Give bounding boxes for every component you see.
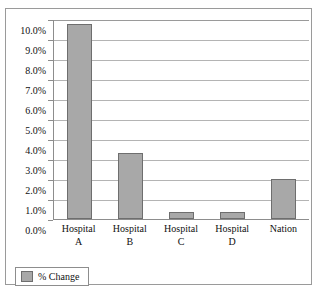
x-label-line2: B <box>104 235 155 248</box>
y-tick-label-40: 4.0% <box>6 146 46 156</box>
bar-slot <box>207 20 258 219</box>
y-axis: 0.0%1.0%2.0%3.0%4.0%5.0%6.0%7.0%8.0%9.0%… <box>6 20 46 220</box>
legend-label-percent-change: % Change <box>38 271 79 282</box>
y-tick-mark <box>48 60 53 61</box>
x-axis-label-nation: Nation <box>258 222 309 248</box>
y-tick-label-00: 0.0% <box>6 226 46 236</box>
y-tick-mark <box>48 180 53 181</box>
y-tick-label-90: 9.0% <box>6 46 46 56</box>
y-tick-label-70: 7.0% <box>6 86 46 96</box>
x-label-line1: Hospital <box>62 223 96 234</box>
chart-canvas: 0.0%1.0%2.0%3.0%4.0%5.0%6.0%7.0%8.0%9.0%… <box>0 0 318 290</box>
y-tick-mark <box>48 100 53 101</box>
y-tick-mark <box>48 40 53 41</box>
x-label-line1: Hospital <box>164 223 198 234</box>
y-tick-label-10: 1.0% <box>6 206 46 216</box>
y-tick-mark <box>48 160 53 161</box>
y-tick-mark <box>48 140 53 141</box>
bar-hospital-d[interactable] <box>220 212 245 219</box>
legend-swatch-percent-change <box>21 271 33 282</box>
y-tick-mark <box>48 120 53 121</box>
x-label-line2: C <box>155 235 206 248</box>
bar-slot <box>105 20 156 219</box>
cut-off-text-remnant <box>0 0 318 7</box>
x-label-line2: A <box>53 235 104 248</box>
bar-hospital-a[interactable] <box>67 24 92 219</box>
x-label-line2: D <box>207 235 258 248</box>
y-tick-label-100: 10.0% <box>6 26 46 36</box>
x-label-line1: Nation <box>270 223 297 234</box>
bar-slot <box>54 20 105 219</box>
bar-slot <box>258 20 309 219</box>
y-tick-mark <box>48 220 53 221</box>
bars-layer <box>54 20 309 219</box>
x-axis-label-hospital-c: HospitalC <box>155 222 206 248</box>
x-axis-labels: HospitalAHospitalBHospitalCHospitalDNati… <box>53 222 309 248</box>
chart-legend: % Change <box>15 267 89 286</box>
x-axis-label-hospital-d: HospitalD <box>207 222 258 248</box>
x-label-line1: Hospital <box>215 223 249 234</box>
y-tick-label-80: 8.0% <box>6 66 46 76</box>
y-tick-label-50: 5.0% <box>6 126 46 136</box>
x-label-line1: Hospital <box>113 223 147 234</box>
bar-hospital-b[interactable] <box>118 153 143 219</box>
chart-frame: 0.0%1.0%2.0%3.0%4.0%5.0%6.0%7.0%8.0%9.0%… <box>5 8 312 285</box>
y-tick-label-60: 6.0% <box>6 106 46 116</box>
y-tick-label-20: 2.0% <box>6 186 46 196</box>
y-tick-mark <box>48 80 53 81</box>
y-tick-label-30: 3.0% <box>6 166 46 176</box>
bar-slot <box>156 20 207 219</box>
bar-hospital-c[interactable] <box>169 212 194 219</box>
plot-area <box>53 20 309 220</box>
x-axis-label-hospital-a: HospitalA <box>53 222 104 248</box>
y-tick-mark <box>48 20 53 21</box>
y-tick-mark <box>48 200 53 201</box>
x-axis-label-hospital-b: HospitalB <box>104 222 155 248</box>
bar-nation[interactable] <box>271 179 296 219</box>
